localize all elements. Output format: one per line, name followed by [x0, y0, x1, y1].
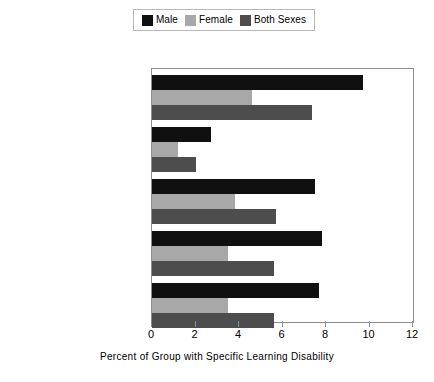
- x-axis-tick: [369, 321, 370, 327]
- legend-swatch-both-sexes: [240, 15, 251, 26]
- bar-both-sexes: [152, 157, 196, 172]
- bar-male: [152, 179, 315, 194]
- x-axis-tick: [282, 321, 283, 327]
- bar-female: [152, 90, 252, 105]
- legend-label-both-sexes: Both Sexes: [254, 15, 306, 25]
- bar-both-sexes: [152, 209, 276, 224]
- x-axis-tick: [195, 321, 196, 327]
- legend-entry-both-sexes: Both Sexes: [240, 15, 306, 26]
- x-axis-tick: [325, 321, 326, 327]
- x-axis-tick: [238, 321, 239, 327]
- plot-frame: [151, 68, 414, 323]
- bar-group: [152, 75, 413, 120]
- legend-swatch-female: [185, 15, 196, 26]
- x-axis-tick-label: 12: [397, 329, 427, 340]
- bar-female: [152, 246, 228, 261]
- x-axis-tick-label: 2: [180, 329, 210, 340]
- bar-both-sexes: [152, 105, 312, 120]
- x-axis-tick: [151, 321, 152, 327]
- chart-legend: Male Female Both Sexes: [133, 9, 315, 31]
- bar-male: [152, 231, 322, 246]
- bar-female: [152, 194, 235, 209]
- legend-swatch-male: [142, 15, 153, 26]
- plot-area: [152, 69, 413, 322]
- bar-male: [152, 127, 211, 142]
- legend-label-female: Female: [199, 15, 233, 25]
- bar-group: [152, 231, 413, 276]
- legend-entry-male: Male: [142, 15, 178, 26]
- bar-group: [152, 127, 413, 172]
- bar-female: [152, 142, 178, 157]
- x-axis-title: Percent of Group with Specific Learning …: [0, 352, 434, 362]
- bar-male: [152, 283, 319, 298]
- x-axis-tick-label: 10: [354, 329, 384, 340]
- legend-entry-female: Female: [185, 15, 233, 26]
- bar-female: [152, 298, 228, 313]
- legend-label-male: Male: [156, 15, 178, 25]
- bar-male: [152, 75, 363, 90]
- x-axis-tick-label: 6: [267, 329, 297, 340]
- x-axis-tick: [412, 321, 413, 327]
- x-axis-tick-label: 0: [136, 329, 166, 340]
- x-axis-tick-label: 4: [223, 329, 253, 340]
- bar-group: [152, 179, 413, 224]
- bar-both-sexes: [152, 313, 274, 328]
- bar-both-sexes: [152, 261, 274, 276]
- x-axis-tick-label: 8: [310, 329, 340, 340]
